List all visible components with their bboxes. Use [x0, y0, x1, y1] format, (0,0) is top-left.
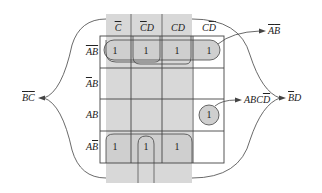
- svg-text:1: 1: [144, 45, 149, 56]
- col-header-2: CD: [171, 22, 186, 33]
- row-header-3: AB: [85, 141, 98, 152]
- mid-right-curve: [215, 100, 236, 106]
- arrow-right-icon: [279, 96, 286, 101]
- col-header-0: C: [115, 22, 122, 33]
- term-left: BC: [22, 92, 35, 103]
- row-headers: AB AB AB AB: [85, 46, 98, 152]
- svg-text:1: 1: [113, 141, 118, 152]
- row-header-1: AB: [85, 78, 98, 89]
- col-header-3: CD: [202, 22, 217, 33]
- arrow-top-right-icon: [259, 29, 266, 34]
- left-term-curves: [44, 19, 106, 178]
- svg-text:1: 1: [207, 109, 212, 120]
- arrow-mid-right-icon: [235, 98, 242, 103]
- arrow-left-icon: [38, 96, 45, 101]
- row-header-2: AB: [85, 109, 98, 120]
- karnaugh-map-diagram: C CD CD CD AB AB AB AB 1 1 1 1 1 1 1 1 B…: [0, 0, 322, 193]
- svg-text:1: 1: [175, 45, 180, 56]
- row-header-0: AB: [85, 46, 98, 57]
- term-top-right: AB: [267, 25, 280, 36]
- svg-text:1: 1: [207, 45, 212, 56]
- svg-text:1: 1: [113, 45, 118, 56]
- term-mid-right: ABCD: [243, 94, 271, 105]
- svg-text:1: 1: [175, 141, 180, 152]
- svg-text:1: 1: [144, 141, 149, 152]
- col-header-1: CD: [140, 22, 155, 33]
- term-far-right: BD: [288, 92, 302, 103]
